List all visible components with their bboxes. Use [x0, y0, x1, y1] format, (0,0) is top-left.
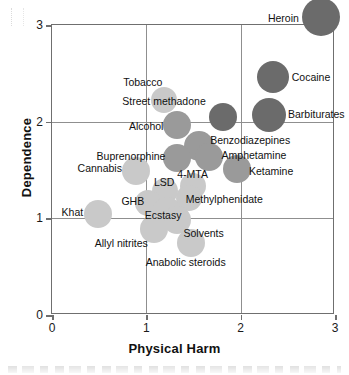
x-axis-tick: [335, 315, 337, 320]
data-point-bubble: [302, 0, 340, 36]
data-point-label: Alcohol: [129, 120, 163, 131]
x-axis-tick-label: 3: [332, 321, 339, 335]
x-axis-tick-label: 0: [49, 321, 56, 335]
data-point-bubble: [84, 200, 112, 228]
plot-area: 01230123HeroinCocaineBarbituratesStreet …: [51, 24, 334, 314]
x-axis-title: Physical Harm: [0, 341, 349, 356]
x-axis-tick: [146, 315, 148, 320]
data-point-label: Methylphenidate: [186, 194, 263, 205]
data-point-label: Ecstasy: [145, 209, 182, 220]
data-point-label: LSD: [154, 177, 174, 188]
y-axis-tick-label: 1: [36, 211, 43, 225]
data-point-bubble: [209, 103, 237, 131]
y-axis-tick: [46, 122, 52, 124]
y-axis-tick-label: 3: [36, 18, 43, 32]
data-point-label: Cannabis: [78, 163, 122, 174]
data-point-label: Allyl nitrites: [95, 238, 148, 249]
gridline-horizontal: [52, 122, 333, 123]
y-axis-tick: [46, 218, 52, 220]
data-point-label: Khat: [62, 206, 84, 217]
data-point-label: Heroin: [268, 13, 299, 24]
scan-artifact: [11, 8, 24, 26]
data-point-label: 4-MTA: [177, 169, 208, 180]
data-point-label: Amphetamine: [222, 150, 287, 161]
data-point-bubble: [252, 98, 286, 132]
data-point-label: Solvents: [183, 228, 223, 239]
data-point-label: Tobacco: [123, 77, 162, 88]
data-point-bubble: [163, 111, 191, 139]
y-axis-tick-label: 0: [36, 308, 43, 322]
data-point-label: GHB: [121, 196, 144, 207]
data-point-bubble: [257, 61, 289, 93]
data-point-label: Street methadone: [122, 96, 205, 107]
x-axis-tick: [241, 315, 243, 320]
drug-harm-bubble-chart: Dependence 01230123HeroinCocaineBarbitur…: [0, 0, 349, 375]
cropped-caption-strip: [8, 366, 341, 373]
x-axis-tick-label: 1: [143, 321, 150, 335]
data-point-label: Barbiturates: [288, 109, 345, 120]
x-axis-tick: [52, 315, 54, 320]
y-axis-tick-label: 2: [36, 115, 43, 129]
data-point-label: Cocaine: [292, 72, 331, 83]
x-axis-tick-label: 2: [237, 321, 244, 335]
data-point-label: Anabolic steroids: [146, 256, 226, 267]
data-point-label: Ketamine: [249, 166, 293, 177]
data-point-label: Benzodiazepines: [210, 135, 290, 146]
y-axis-title: Dependence: [19, 98, 34, 218]
data-point-label: Buprenorphine: [97, 151, 166, 162]
y-axis-tick: [46, 25, 52, 27]
